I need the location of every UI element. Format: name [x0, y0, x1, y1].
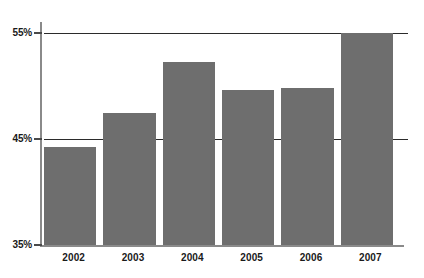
- x-axis-labels: 200220032004200520062007: [44, 252, 400, 270]
- x-axis-label-2002: 2002: [44, 252, 103, 263]
- x-axis-label-2004: 2004: [163, 252, 222, 263]
- bar-chart: 55% 45% 35% 200220032004200520062007: [0, 0, 424, 278]
- bars-layer: [44, 0, 400, 278]
- bar-2004: [163, 62, 215, 245]
- bar-2002: [44, 147, 96, 245]
- y-tick-mark-55: [34, 32, 42, 34]
- y-axis-label-35: 35%: [0, 239, 32, 250]
- y-tick-mark-45: [34, 138, 42, 140]
- bar-2007: [341, 33, 393, 245]
- bar-2006: [281, 88, 333, 245]
- x-axis-label-2005: 2005: [222, 252, 281, 263]
- x-axis-line: [40, 245, 404, 247]
- x-axis-label-2007: 2007: [341, 252, 400, 263]
- y-axis-spine: [40, 22, 42, 246]
- y-tick-mark-35: [34, 244, 42, 246]
- bar-2003: [103, 113, 155, 246]
- bar-2005: [222, 90, 274, 245]
- x-axis-label-2003: 2003: [103, 252, 162, 263]
- y-axis-label-45: 45%: [0, 133, 32, 144]
- y-axis-label-55: 55%: [0, 27, 32, 38]
- x-axis-label-2006: 2006: [281, 252, 340, 263]
